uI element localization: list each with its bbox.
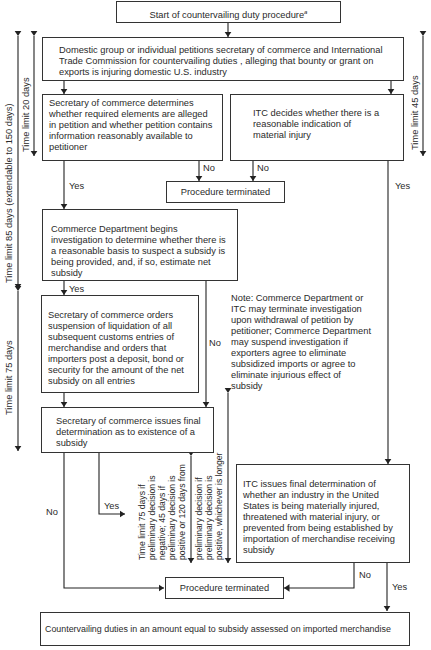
commerce-investigation-label: Commerce Department begins investigation… (51, 224, 226, 278)
edge-label-yes-commerce: Yes (69, 284, 84, 295)
start-box: Start of countervailing duty procedurea (116, 1, 341, 23)
duties-assessed-box: Countervailing duties in an amount equal… (40, 612, 410, 646)
itc-decides-box: ITC decides whether there is a reasonabl… (230, 94, 404, 161)
time-limit-85-label: Time limit 85 days (extendable to 150 da… (4, 104, 15, 283)
duties-assessed-label: Countervailing duties in an amount equal… (45, 624, 391, 634)
middle-b-line: preliminary decision if (194, 453, 204, 560)
terminated-2-label: Procedure terminated (180, 583, 269, 593)
secretary-orders-box: Secretary of commerce orders suspension … (41, 295, 199, 393)
middle-a-line: negative; 45 days if (157, 464, 167, 560)
edge-label-yes-final: Yes (104, 501, 119, 512)
secretary-final-label: Secretary of commerce issues final deter… (56, 416, 201, 448)
middle-a-line: preliminary decision is (167, 464, 177, 560)
secretary-final-box: Secretary of commerce issues final deter… (41, 407, 214, 453)
note-text: Note: Commerce Department or ITC may ter… (231, 293, 373, 392)
middle-b-line: positive, whichever is longer (214, 453, 224, 560)
itc-decides-label: ITC decides whether there is a reasonabl… (253, 108, 379, 140)
edge-label-no-itc-final: No (359, 570, 371, 581)
note-label: Note: Commerce Department or ITC may ter… (231, 293, 371, 391)
procedure-terminated-box-1: Procedure terminated (166, 181, 285, 203)
middle-time-limit-text-b: preliminary decision if preliminary deci… (194, 453, 224, 560)
footnote-mark: a (304, 9, 307, 15)
edge-label-no-2: No (257, 163, 269, 174)
edge-label-yes-itc: Yes (395, 181, 410, 192)
edge-label-yes-itc-final: Yes (392, 582, 407, 593)
edge-label-no-final-left: No (46, 507, 58, 518)
middle-time-limit-text-a: Time limit 75 days if preliminary decisi… (137, 464, 187, 560)
time-limit-75-label: Time limit 75 days (4, 340, 15, 415)
petition-box: Domestic group or individual petitions s… (42, 37, 404, 81)
middle-a-line: Time limit 75 days if (137, 464, 147, 560)
secretary-determines-label: Secretary of commerce determines whether… (49, 98, 212, 152)
itc-final-label: ITC issues final determination of whethe… (243, 479, 395, 555)
edge-label-no-1: No (203, 163, 215, 174)
start-label: Start of countervailing duty procedure (150, 10, 305, 20)
terminated-1-label: Procedure terminated (181, 187, 270, 197)
time-limit-45-label: Time limit 45 days (410, 75, 421, 150)
time-limit-20-label: Time limit 20 days (21, 77, 32, 152)
procedure-terminated-box-2: Procedure terminated (165, 577, 284, 599)
itc-final-box: ITC issues final determination of whethe… (236, 464, 410, 563)
commerce-investigation-box: Commerce Department begins investigation… (42, 209, 238, 281)
petition-label: Domestic group or individual petitions s… (59, 45, 383, 77)
middle-a-line: positive or 120 days from (177, 464, 187, 560)
secretary-determines-box: Secretary of commerce determines whether… (42, 94, 223, 161)
middle-b-line: preliminary decision is (204, 453, 214, 560)
edge-label-yes-secretary: Yes (69, 181, 84, 192)
middle-a-line: preliminary decision is (147, 464, 157, 560)
secretary-orders-label: Secretary of commerce orders suspension … (48, 310, 184, 386)
edge-label-no-commerce: No (209, 338, 221, 349)
